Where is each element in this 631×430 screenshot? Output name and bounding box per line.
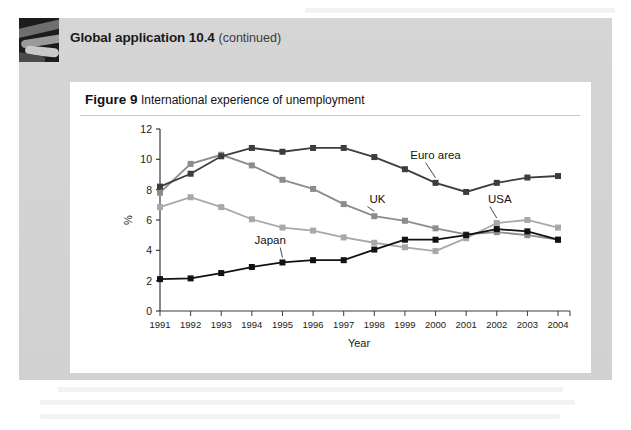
data-point-marker xyxy=(188,161,194,167)
data-point-marker xyxy=(279,149,285,155)
x-tick-label: 1999 xyxy=(394,319,415,330)
y-tick-label: 4 xyxy=(146,244,152,256)
data-point-marker xyxy=(341,234,347,240)
data-point-marker xyxy=(494,220,500,226)
x-tick-label: 2001 xyxy=(456,319,477,330)
data-point-marker xyxy=(524,228,530,234)
data-point-marker xyxy=(310,145,316,151)
data-point-marker xyxy=(463,232,469,238)
chart-area: 024681012%199119921993199419951996199719… xyxy=(70,115,591,373)
x-tick-label: 1998 xyxy=(364,319,385,330)
data-point-marker xyxy=(555,225,561,231)
data-point-marker xyxy=(433,180,439,186)
y-tick-label: 6 xyxy=(146,214,152,226)
data-point-marker xyxy=(402,166,408,172)
x-tick-label: 1991 xyxy=(149,319,170,330)
data-point-marker xyxy=(157,276,163,282)
data-point-marker xyxy=(310,186,316,192)
x-tick-label: 1995 xyxy=(272,319,293,330)
x-tick-label: 2003 xyxy=(517,319,538,330)
data-point-marker xyxy=(402,237,408,243)
data-point-marker xyxy=(249,145,255,151)
y-axis-label: % xyxy=(122,215,134,225)
y-tick-label: 2 xyxy=(146,275,152,287)
data-point-marker xyxy=(433,248,439,254)
data-point-marker xyxy=(218,153,224,159)
data-point-marker xyxy=(371,154,377,160)
data-point-marker xyxy=(433,237,439,243)
data-point-marker xyxy=(402,244,408,250)
data-point-marker xyxy=(279,177,285,183)
x-tick-label: 1994 xyxy=(241,319,262,330)
annotation-leader-line xyxy=(490,207,497,218)
data-point-marker xyxy=(433,225,439,231)
series-annotation: Japan xyxy=(255,234,286,246)
y-tick-label: 8 xyxy=(146,184,152,196)
page-bleed-1 xyxy=(58,387,563,392)
data-point-marker xyxy=(249,264,255,270)
data-point-marker xyxy=(310,257,316,263)
page-bleed-top xyxy=(305,8,615,13)
data-point-marker xyxy=(218,204,224,210)
x-tick-label: 1996 xyxy=(303,319,324,330)
data-point-marker xyxy=(341,145,347,151)
data-point-marker xyxy=(463,189,469,195)
annotation-leader-line xyxy=(367,207,374,212)
data-point-marker xyxy=(371,247,377,253)
data-point-marker xyxy=(524,217,530,223)
page-bleed-2 xyxy=(40,400,575,405)
annotation-leader-line xyxy=(280,248,282,258)
data-point-marker xyxy=(371,213,377,219)
data-point-marker xyxy=(157,184,163,190)
panel-title: Global application 10.4 (continued) xyxy=(70,30,281,45)
data-point-marker xyxy=(249,216,255,222)
data-point-marker xyxy=(341,257,347,263)
x-tick-label: 2002 xyxy=(486,319,507,330)
data-point-marker xyxy=(188,194,194,200)
series-annotation: UK xyxy=(369,193,385,205)
data-point-marker xyxy=(279,259,285,265)
data-point-marker xyxy=(371,240,377,246)
series-annotation: Euro area xyxy=(410,149,461,161)
data-point-marker xyxy=(494,226,500,232)
panel-title-continued: (continued) xyxy=(219,31,282,45)
figure-card: Figure 9 International experience of une… xyxy=(70,82,591,373)
x-tick-label: 1993 xyxy=(211,319,232,330)
x-tick-label: 2004 xyxy=(547,319,568,330)
data-point-marker xyxy=(188,275,194,281)
panel-title-main: Global application 10.4 xyxy=(70,30,215,45)
data-point-marker xyxy=(188,171,194,177)
x-tick-label: 1997 xyxy=(333,319,354,330)
data-point-marker xyxy=(249,162,255,168)
y-tick-label: 12 xyxy=(140,123,152,135)
data-point-marker xyxy=(341,201,347,207)
data-point-marker xyxy=(157,204,163,210)
y-tick-label: 10 xyxy=(140,153,152,165)
page-bleed-3 xyxy=(40,414,560,419)
data-point-marker xyxy=(279,225,285,231)
x-tick-label: 2000 xyxy=(425,319,446,330)
series-annotation: USA xyxy=(488,193,512,205)
data-point-marker xyxy=(402,218,408,224)
data-point-marker xyxy=(157,190,163,196)
data-point-marker xyxy=(310,228,316,234)
y-tick-label: 0 xyxy=(146,305,152,317)
figure-caption-text: International experience of unemployment xyxy=(141,93,364,107)
data-point-marker xyxy=(524,175,530,181)
figure-caption: Figure 9 International experience of une… xyxy=(85,92,364,107)
data-point-marker xyxy=(555,173,561,179)
figure-label: Figure 9 xyxy=(85,92,138,107)
data-point-marker xyxy=(218,270,224,276)
x-axis-label: Year xyxy=(348,337,371,349)
photo-thumbnail xyxy=(19,18,59,62)
x-tick-label: 1992 xyxy=(180,319,201,330)
annotation-leader-line xyxy=(426,163,436,178)
unemployment-line-chart: 024681012%199119921993199419951996199719… xyxy=(70,115,591,373)
data-point-marker xyxy=(555,237,561,243)
data-point-marker xyxy=(494,180,500,186)
